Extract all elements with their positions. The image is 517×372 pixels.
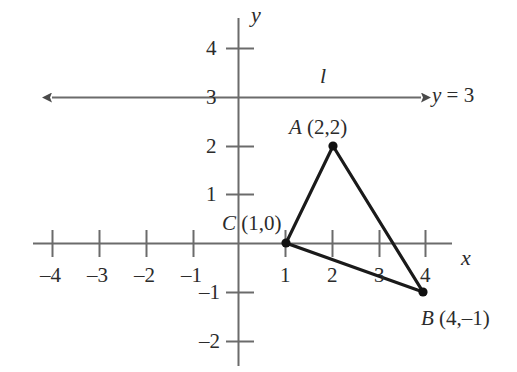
y-tick-label-3: 3 [206,87,217,108]
x-tick-label-neg4: –4 [40,265,61,286]
point-b-coords: (4,–1) [439,306,490,330]
y-tick-label-4: 4 [206,38,217,59]
x-tick-label-1: 1 [280,265,291,286]
x-axis-label: x [461,247,471,269]
line-l-equation: y = 3 [432,85,474,106]
y-tick-label-2: 2 [206,136,217,157]
x-tick-label-2: 2 [327,265,338,286]
y-axis [226,18,254,366]
point-b-dot [418,287,427,296]
point-c-label: C (1,0) [222,213,282,234]
y-tick-label-neg1: –1 [199,282,220,303]
y-axis-label: y [251,4,261,26]
triangle-abc [286,146,423,292]
vertex-dots [281,141,427,296]
x-tick-label-3: 3 [374,265,385,286]
point-a-dot [328,141,337,150]
point-a-coords: (2,2) [307,115,347,139]
line-l-label: l [320,65,326,87]
line-l-equation-lhs: y [432,83,441,107]
y-tick-label-neg2: –2 [199,331,220,352]
point-c-letter: C [222,211,236,235]
y-tick-label-1: 1 [206,184,217,205]
point-b-letter: B [421,306,434,330]
point-c-dot [281,238,290,247]
x-tick-label-neg1: –1 [181,265,202,286]
point-c-coords: (1,0) [241,211,281,235]
x-tick-label-4: 4 [420,265,431,286]
y-axis-ticks [226,49,254,342]
point-a-label: A (2,2) [289,117,347,138]
coordinate-plane-figure: y x 4 3 2 1 –1 –2 –4 –3 –2 –1 1 2 3 4 A … [0,0,517,372]
point-b-label: B (4,–1) [421,308,490,329]
x-tick-label-neg2: –2 [134,265,155,286]
point-a-letter: A [289,115,302,139]
x-tick-label-neg3: –3 [87,265,108,286]
line-l-equation-rhs: = 3 [447,83,475,107]
